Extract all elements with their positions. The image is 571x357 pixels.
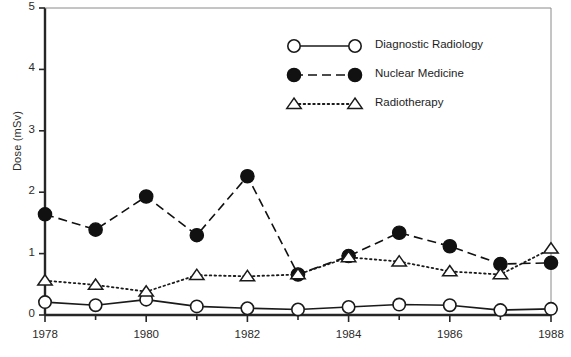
data-point xyxy=(89,299,101,311)
data-point xyxy=(89,223,102,236)
series-group xyxy=(38,170,558,317)
x-tick-label: 1986 xyxy=(428,328,472,340)
data-point xyxy=(241,170,254,183)
data-point xyxy=(544,243,558,253)
data-point xyxy=(241,302,253,314)
plot-area xyxy=(0,0,571,357)
data-point xyxy=(393,298,405,310)
data-point xyxy=(444,299,456,311)
legend-marker-1 xyxy=(287,68,300,81)
data-point xyxy=(443,266,457,276)
series-nuclear-medicine xyxy=(38,170,557,282)
data-point xyxy=(443,240,456,253)
y-axis-title: Dose (mSv) xyxy=(11,86,23,196)
y-tick-label: 2 xyxy=(13,184,35,196)
x-tick-label: 1980 xyxy=(124,328,168,340)
y-tick-label: 1 xyxy=(13,246,35,258)
data-point xyxy=(544,256,557,269)
legend-label: Diagnostic Radiology xyxy=(375,38,483,50)
data-point xyxy=(292,303,304,315)
y-tick-label: 0 xyxy=(13,307,35,319)
x-tick-label: 1988 xyxy=(529,328,571,340)
legend-marker-end-1 xyxy=(348,68,361,81)
legend-marker-end-2 xyxy=(348,98,362,108)
data-point xyxy=(190,228,203,241)
y-tick-label: 4 xyxy=(13,61,35,73)
chart-figure: Dose (mSv) 012345 1978198019821984198619… xyxy=(0,0,571,357)
data-point xyxy=(494,304,506,316)
legend-marker-end-0 xyxy=(349,40,361,52)
data-point xyxy=(88,279,102,289)
legend-marker-0 xyxy=(288,40,300,52)
data-point xyxy=(545,303,557,315)
series-line xyxy=(45,176,551,274)
data-point xyxy=(342,301,354,313)
data-point xyxy=(38,208,51,221)
legend-label: Radiotherapy xyxy=(375,96,443,108)
legend-label: Nuclear Medicine xyxy=(375,67,464,79)
x-tick-label: 1984 xyxy=(327,328,371,340)
data-point xyxy=(393,226,406,239)
y-tick-label: 5 xyxy=(13,0,35,12)
series-diagnostic-radiology xyxy=(39,293,557,316)
y-tick-label: 3 xyxy=(13,123,35,135)
x-tick-label: 1978 xyxy=(23,328,67,340)
data-point xyxy=(140,190,153,203)
data-point xyxy=(191,300,203,312)
series-radiotherapy xyxy=(38,243,558,296)
x-tick-label: 1982 xyxy=(225,328,269,340)
data-point xyxy=(39,296,51,308)
data-point xyxy=(38,275,52,285)
legend-group xyxy=(287,40,362,109)
